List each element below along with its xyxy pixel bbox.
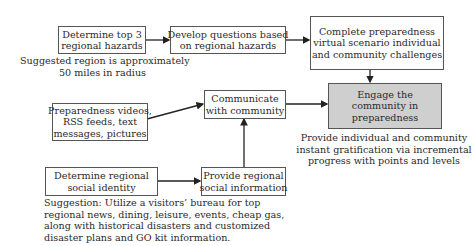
note-text: Suggested region is approximately <box>20 55 185 67</box>
note-gratification: Provide individual and community instant… <box>294 132 474 167</box>
node-text: messages, pictures <box>54 128 147 140</box>
note-region-size: Suggested region is approximately 50 mil… <box>20 55 185 78</box>
note-suggestion: Suggestion: Utilize a visitors’ bureau f… <box>44 197 284 243</box>
node-text: regional hazards <box>61 40 143 52</box>
node-text: RSS feeds, text <box>63 116 137 128</box>
note-text: instant gratification via incremental <box>294 144 474 156</box>
node-text: preparedness <box>352 112 418 124</box>
node-text: social information <box>200 182 288 194</box>
node-text: Provide regional <box>203 170 283 182</box>
note-text: Provide individual and community <box>294 132 474 144</box>
node-text: virtual scenario individual <box>313 37 440 49</box>
node-media-channels: Preparedness videos, RSS feeds, text mes… <box>52 103 148 141</box>
node-text: community in <box>352 100 418 112</box>
node-text: with community <box>206 105 284 117</box>
node-determine-top-hazards: Determine top 3 regional hazards <box>58 26 146 54</box>
node-text: Determine top 3 <box>62 29 142 41</box>
node-text: and community challenges <box>312 49 442 61</box>
note-text: 50 miles in radius <box>20 67 185 79</box>
node-text: Engage the <box>357 89 413 101</box>
node-text: Develop questions based <box>168 29 289 41</box>
node-text: Preparedness videos, <box>48 105 152 117</box>
node-text: Complete preparedness <box>319 26 435 38</box>
node-engage-community: Engage the community in preparedness <box>328 83 442 129</box>
node-text: on regional hazards <box>180 40 277 52</box>
note-text: along with historical disasters and cust… <box>44 220 284 232</box>
node-social-information: Provide regional social information <box>201 167 286 196</box>
arrow-media-to-communicate <box>147 104 203 119</box>
note-text: progress with points and levels <box>294 155 474 167</box>
note-text: regional news, dining, leisure, events, … <box>44 209 284 221</box>
node-text: social identity <box>67 182 135 194</box>
node-complete-scenario: Complete preparedness virtual scenario i… <box>310 16 444 70</box>
node-text: Determine regional <box>54 170 149 182</box>
node-social-identity: Determine regional social identity <box>45 167 158 196</box>
node-develop-questions: Develop questions based on regional haza… <box>170 26 286 54</box>
note-text: Suggestion: Utilize a visitors’ bureau f… <box>44 197 284 209</box>
note-text: disaster plans and GO kit information. <box>44 232 284 244</box>
node-text: Communicate <box>211 93 278 105</box>
node-communicate: Communicate with community <box>204 90 286 119</box>
